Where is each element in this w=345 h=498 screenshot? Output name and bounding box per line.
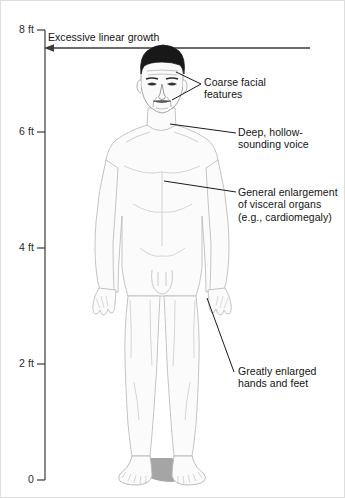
growth-arrow-label: Excessive linear growth	[48, 31, 159, 43]
callout-greatly-enlarged-hands-and-feet: Greatly enlarged hands and feet	[238, 365, 316, 390]
axis-label-4ft: 4 ft	[0, 242, 34, 253]
callout-deep-hollow-sounding-voice: Deep, hollow- sounding voice	[238, 126, 309, 151]
axis-label-8ft: 8 ft	[0, 24, 34, 35]
axis-label-0ft: 0	[0, 474, 34, 485]
figure-canvas	[0, 0, 345, 498]
callout-general-enlargement-visceral-organs: General enlargement of visceral organs (…	[238, 186, 338, 223]
axis-label-2ft: 2 ft	[0, 358, 34, 369]
acromegaly-figure: 8 ft 6 ft 4 ft 2 ft 0 Excessive linear g…	[0, 0, 345, 498]
left-hand-shape	[93, 288, 116, 315]
axis-label-6ft: 6 ft	[0, 126, 34, 137]
callout-coarse-facial-features: Coarse facial features	[204, 76, 266, 101]
